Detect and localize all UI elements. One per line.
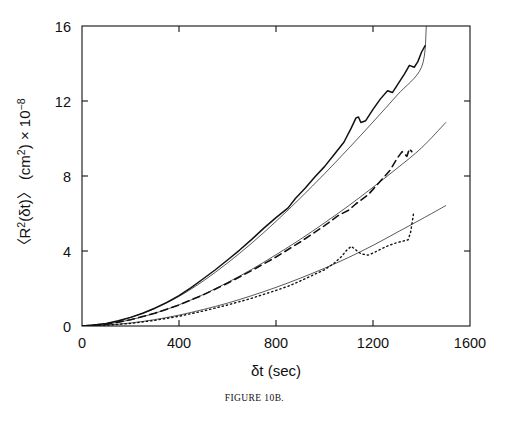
x-tick-label: 1600 bbox=[454, 335, 486, 351]
series-lower-fit bbox=[82, 206, 446, 326]
y-tick-label: 16 bbox=[55, 19, 71, 35]
series-middle-fit bbox=[82, 123, 446, 326]
series-upper-fit bbox=[82, 26, 426, 326]
figure-10b: 0400800120016000481216δt (sec)〈R2(δt)〉 (… bbox=[0, 0, 509, 428]
svg-text:〈R2(δt)〉 (cm2) × 10−8: 〈R2(δt)〉 (cm2) × 10−8 bbox=[15, 98, 33, 253]
plot-frame bbox=[82, 26, 470, 326]
y-tick-label: 8 bbox=[63, 169, 71, 185]
figure-caption: FIGURE 10B. bbox=[0, 393, 509, 403]
y-tick-label: 4 bbox=[63, 244, 71, 260]
x-tick-label: 1200 bbox=[357, 335, 389, 351]
x-axis-title: δt (sec) bbox=[251, 362, 301, 379]
chart-canvas: 0400800120016000481216δt (sec)〈R2(δt)〉 (… bbox=[0, 0, 509, 428]
y-tick-label: 0 bbox=[63, 319, 71, 335]
y-tick-label: 12 bbox=[55, 94, 71, 110]
x-tick-label: 400 bbox=[167, 335, 191, 351]
y-axis-title: 〈R2(δt)〉 (cm2) × 10−8 bbox=[15, 98, 33, 253]
series-upper-data bbox=[82, 46, 425, 326]
x-tick-label: 0 bbox=[78, 335, 86, 351]
series-lower-data bbox=[82, 212, 414, 326]
x-tick-label: 800 bbox=[264, 335, 288, 351]
